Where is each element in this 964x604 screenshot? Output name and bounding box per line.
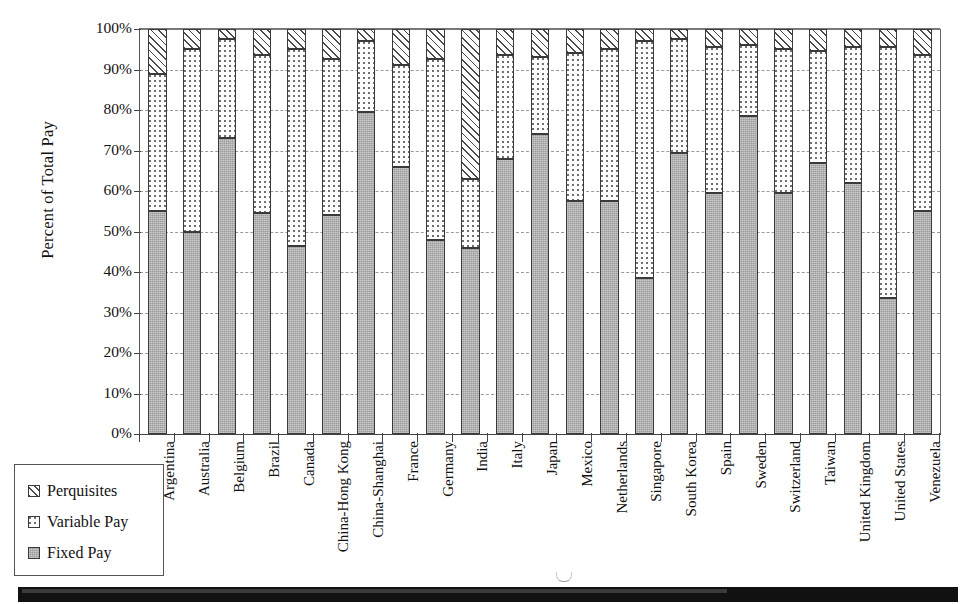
bar-group[interactable] xyxy=(844,29,862,434)
bar-segment-perquisites[interactable] xyxy=(670,29,688,39)
bar-segment-fixed-pay[interactable] xyxy=(253,213,271,434)
bar-stack xyxy=(774,29,792,434)
bar-segment-variable-pay[interactable] xyxy=(635,41,653,278)
bar-segment-variable-pay[interactable] xyxy=(566,53,584,201)
bar-group[interactable] xyxy=(322,29,340,434)
bar-segment-variable-pay[interactable] xyxy=(809,51,827,162)
bar-segment-fixed-pay[interactable] xyxy=(392,167,410,434)
legend-entry[interactable]: Perquisites xyxy=(28,475,163,506)
bar-segment-perquisites[interactable] xyxy=(253,29,271,55)
bar-segment-fixed-pay[interactable] xyxy=(566,201,584,434)
bar-group[interactable] xyxy=(357,29,375,434)
bar-group[interactable] xyxy=(392,29,410,434)
bar-group[interactable] xyxy=(531,29,549,434)
bar-segment-perquisites[interactable] xyxy=(496,29,514,55)
bar-segment-fixed-pay[interactable] xyxy=(426,240,444,434)
bar-group[interactable] xyxy=(287,29,305,434)
bar-group[interactable] xyxy=(774,29,792,434)
bar-segment-variable-pay[interactable] xyxy=(322,59,340,215)
bar-segment-fixed-pay[interactable] xyxy=(600,201,618,434)
bar-group[interactable] xyxy=(670,29,688,434)
bar-segment-perquisites[interactable] xyxy=(287,29,305,49)
bar-group[interactable] xyxy=(739,29,757,434)
bar-segment-fixed-pay[interactable] xyxy=(670,153,688,434)
bar-segment-perquisites[interactable] xyxy=(809,29,827,51)
bar-segment-variable-pay[interactable] xyxy=(600,49,618,201)
bar-group[interactable] xyxy=(635,29,653,434)
bar-segment-perquisites[interactable] xyxy=(322,29,340,59)
bar-segment-variable-pay[interactable] xyxy=(496,55,514,158)
bar-segment-variable-pay[interactable] xyxy=(253,55,271,213)
bar-segment-fixed-pay[interactable] xyxy=(531,134,549,434)
bar-segment-perquisites[interactable] xyxy=(566,29,584,53)
bar-segment-perquisites[interactable] xyxy=(148,29,166,74)
bar-segment-fixed-pay[interactable] xyxy=(635,278,653,434)
bar-segment-variable-pay[interactable] xyxy=(913,55,931,211)
bar-group[interactable] xyxy=(566,29,584,434)
bar-segment-perquisites[interactable] xyxy=(879,29,897,47)
bar-group[interactable] xyxy=(426,29,444,434)
bar-segment-perquisites[interactable] xyxy=(913,29,931,55)
y-axis-title: Percent of Total Pay xyxy=(38,70,58,310)
bar-segment-fixed-pay[interactable] xyxy=(183,232,201,435)
bar-segment-variable-pay[interactable] xyxy=(426,59,444,239)
bar-segment-fixed-pay[interactable] xyxy=(879,298,897,434)
bar-segment-fixed-pay[interactable] xyxy=(774,193,792,434)
bar-segment-fixed-pay[interactable] xyxy=(322,215,340,434)
bar-segment-variable-pay[interactable] xyxy=(148,74,166,212)
bar-segment-variable-pay[interactable] xyxy=(531,57,549,134)
bar-segment-variable-pay[interactable] xyxy=(461,179,479,248)
bar-group[interactable] xyxy=(253,29,271,434)
bar-group[interactable] xyxy=(913,29,931,434)
legend-entry[interactable]: Variable Pay xyxy=(28,506,163,537)
bar-segment-perquisites[interactable] xyxy=(705,29,723,47)
bar-segment-perquisites[interactable] xyxy=(600,29,618,49)
bar-segment-fixed-pay[interactable] xyxy=(705,193,723,434)
bar-segment-variable-pay[interactable] xyxy=(774,49,792,193)
bar-group[interactable] xyxy=(809,29,827,434)
bar-group[interactable] xyxy=(600,29,618,434)
bar-segment-variable-pay[interactable] xyxy=(357,41,375,112)
bar-group[interactable] xyxy=(148,29,166,434)
bar-segment-perquisites[interactable] xyxy=(357,29,375,41)
bar-segment-fixed-pay[interactable] xyxy=(844,183,862,434)
bar-segment-variable-pay[interactable] xyxy=(183,49,201,231)
bar-segment-fixed-pay[interactable] xyxy=(148,211,166,434)
bar-segment-variable-pay[interactable] xyxy=(705,47,723,193)
bar-group[interactable] xyxy=(705,29,723,434)
bar-segment-fixed-pay[interactable] xyxy=(218,138,236,434)
bar-group[interactable] xyxy=(183,29,201,434)
bar-segment-perquisites[interactable] xyxy=(461,29,479,179)
bar-group[interactable] xyxy=(496,29,514,434)
bar-segment-fixed-pay[interactable] xyxy=(809,163,827,434)
legend-entry[interactable]: Fixed Pay xyxy=(28,537,163,568)
bar-segment-variable-pay[interactable] xyxy=(392,65,410,166)
bar-stack xyxy=(531,29,549,434)
bar-segment-variable-pay[interactable] xyxy=(670,39,688,152)
bar-segment-fixed-pay[interactable] xyxy=(739,116,757,434)
bar-segment-variable-pay[interactable] xyxy=(879,47,897,298)
bar-segment-perquisites[interactable] xyxy=(531,29,549,57)
y-axis-tick-label: 10% xyxy=(104,384,132,402)
bar-segment-variable-pay[interactable] xyxy=(739,45,757,116)
bar-segment-fixed-pay[interactable] xyxy=(496,159,514,434)
bar-segment-perquisites[interactable] xyxy=(739,29,757,45)
bar-group[interactable] xyxy=(461,29,479,434)
bar-segment-perquisites[interactable] xyxy=(392,29,410,65)
bar-segment-perquisites[interactable] xyxy=(774,29,792,49)
bar-segment-variable-pay[interactable] xyxy=(218,39,236,138)
bar-segment-variable-pay[interactable] xyxy=(287,49,305,245)
bar-segment-variable-pay[interactable] xyxy=(844,47,862,183)
bar-segment-fixed-pay[interactable] xyxy=(357,112,375,434)
bar-segment-perquisites[interactable] xyxy=(635,29,653,41)
bar-segment-fixed-pay[interactable] xyxy=(287,246,305,434)
bar-group[interactable] xyxy=(218,29,236,434)
bar-segment-perquisites[interactable] xyxy=(218,29,236,39)
bar-segment-fixed-pay[interactable] xyxy=(461,248,479,434)
bar-stack xyxy=(844,29,862,434)
bar-segment-fixed-pay[interactable] xyxy=(913,211,931,434)
bar-group[interactable] xyxy=(879,29,897,434)
bar-segment-perquisites[interactable] xyxy=(426,29,444,59)
bar-segment-perquisites[interactable] xyxy=(844,29,862,47)
bar-segment-perquisites[interactable] xyxy=(183,29,201,49)
